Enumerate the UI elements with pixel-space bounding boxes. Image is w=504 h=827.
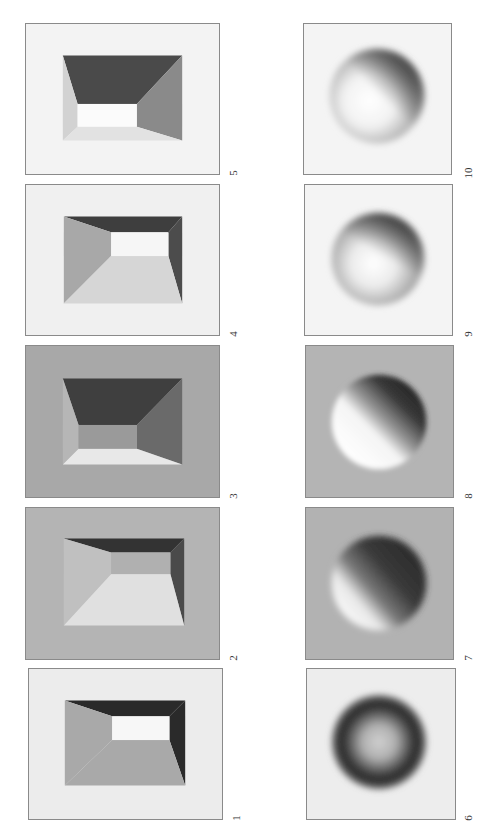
room-illustration-3 bbox=[26, 346, 219, 497]
panel-label-6: 6 bbox=[461, 811, 475, 825]
room-panel-4 bbox=[25, 184, 220, 336]
room-panel-2 bbox=[25, 507, 220, 660]
room-illustration-2 bbox=[26, 508, 219, 659]
panel-label-7: 7 bbox=[461, 651, 475, 665]
panel-label-8: 8 bbox=[461, 489, 475, 503]
sphere-panel-9 bbox=[304, 184, 453, 336]
panel-label-5: 5 bbox=[226, 166, 240, 180]
panel-label-3: 3 bbox=[226, 489, 240, 503]
room-illustration-4 bbox=[26, 185, 219, 335]
room-panel-1 bbox=[28, 668, 223, 820]
room-panel-5 bbox=[25, 23, 220, 175]
sphere-panel-6 bbox=[306, 668, 456, 820]
panel-label-9: 9 bbox=[461, 327, 475, 341]
room-illustration-1 bbox=[29, 669, 222, 819]
sphere-illustration-8 bbox=[306, 346, 453, 497]
sphere-panel-8 bbox=[305, 345, 454, 498]
room-panel-3 bbox=[25, 345, 220, 498]
panel-label-4: 4 bbox=[226, 327, 240, 341]
panel-label-2: 2 bbox=[226, 651, 240, 665]
sphere-panel-7 bbox=[305, 507, 454, 660]
panel-label-1: 1 bbox=[229, 811, 243, 825]
panel-label-10: 10 bbox=[461, 166, 475, 180]
sphere-illustration-9 bbox=[305, 185, 452, 335]
sphere-panel-10 bbox=[303, 23, 452, 175]
sphere-illustration-6 bbox=[307, 669, 455, 819]
sphere-illustration-10 bbox=[304, 24, 451, 174]
sphere-illustration-7 bbox=[306, 508, 453, 659]
room-illustration-5 bbox=[26, 24, 219, 174]
